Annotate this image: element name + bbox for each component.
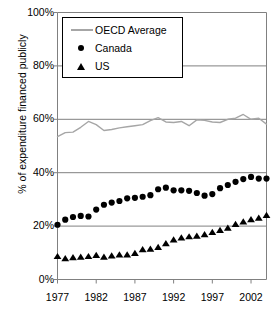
data-series [54, 114, 271, 261]
legend: OECD Average Canada US [62, 17, 183, 78]
legend-item-oecd-average: OECD Average [69, 23, 167, 37]
line-swatch-icon [69, 23, 95, 37]
legend-label: US [95, 60, 110, 72]
chart-container: % of expenditure financed publicly 0%20%… [0, 0, 274, 312]
triangle-marker-icon [69, 59, 95, 73]
legend-item-us: US [69, 59, 110, 73]
legend-label: OECD Average [95, 24, 167, 36]
legend-item-canada: Canada [69, 41, 132, 55]
circle-marker-icon [69, 41, 95, 55]
legend-label: Canada [95, 42, 132, 54]
gridlines [58, 66, 267, 226]
